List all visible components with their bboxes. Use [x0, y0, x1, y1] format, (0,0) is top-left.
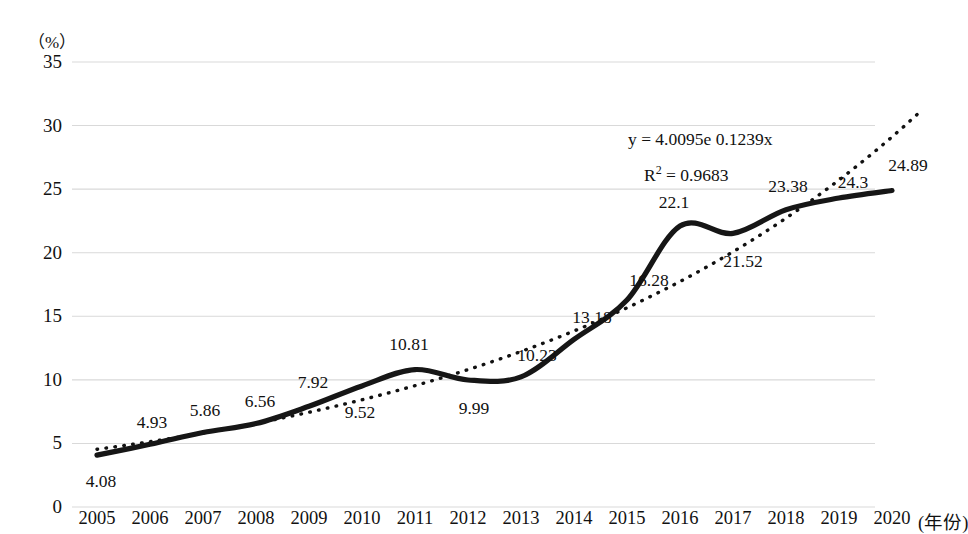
y-axis-tick-25: 25	[22, 178, 62, 200]
x-axis-tick-2011: 2011	[397, 508, 433, 529]
data-label-2013: 10.23	[517, 344, 556, 365]
x-axis-tick-2018: 2018	[768, 508, 805, 529]
data-label-2005: 4.08	[86, 471, 117, 492]
x-axis-tick-2016: 2016	[662, 508, 699, 529]
x-axis-tick-2012: 2012	[450, 508, 487, 529]
x-axis-tick-2010: 2010	[344, 508, 381, 529]
x-axis-tick-2014: 2014	[556, 508, 593, 529]
y-axis-tick-5: 5	[22, 432, 62, 454]
data-label-2006: 4.93	[137, 412, 168, 433]
data-label-2015: 16.28	[629, 270, 668, 291]
data-label-2020: 24.89	[888, 154, 927, 175]
x-axis-tick-2005: 2005	[79, 508, 116, 529]
x-axis-tick-2009: 2009	[291, 508, 328, 529]
x-axis-tick-2008: 2008	[238, 508, 275, 529]
data-label-2009: 7.92	[298, 372, 329, 393]
data-label-2018: 23.38	[768, 175, 807, 196]
x-axis-unit-label: (年份)	[918, 508, 968, 534]
data-label-2016: 22.1	[659, 192, 690, 213]
y-axis-tick-20: 20	[22, 242, 62, 264]
exponential-trendline	[97, 113, 919, 449]
x-axis-tick-2006: 2006	[132, 508, 169, 529]
data-label-2014: 13.18	[572, 307, 611, 328]
x-axis-tick-2013: 2013	[503, 508, 540, 529]
data-label-2017: 21.52	[723, 251, 762, 272]
x-axis-tick-2015: 2015	[609, 508, 646, 529]
y-axis-tick-15: 15	[22, 305, 62, 327]
x-axis-tick-2020: 2020	[874, 508, 911, 529]
trendline-r-squared-label: R2 = 0.9683	[644, 163, 728, 186]
y-axis-tick-35: 35	[22, 51, 62, 73]
x-axis-tick-2019: 2019	[821, 508, 858, 529]
data-label-2012: 9.99	[459, 397, 490, 418]
data-label-2007: 5.86	[190, 400, 221, 421]
data-label-2011: 10.81	[389, 333, 428, 354]
trendline-equation-label: y = 4.0095e 0.1239x	[628, 129, 773, 150]
data-label-2019: 24.3	[838, 172, 869, 193]
y-axis-tick-10: 10	[22, 369, 62, 391]
x-axis-tick-2007: 2007	[185, 508, 222, 529]
x-axis-tick-2017: 2017	[715, 508, 752, 529]
y-axis-tick-30: 30	[22, 115, 62, 137]
data-label-2008: 6.56	[245, 390, 276, 411]
data-label-2010: 9.52	[345, 401, 376, 422]
y-axis-tick-0: 0	[22, 496, 62, 518]
